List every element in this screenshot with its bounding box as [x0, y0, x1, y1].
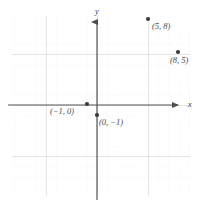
point-label-neg1-0: (−1, 0) [50, 107, 74, 116]
data-point [176, 50, 180, 54]
data-point [85, 102, 89, 106]
x-axis-label: x [188, 100, 192, 109]
point-label-5-8: (5, 8) [152, 22, 170, 31]
plot-canvas [0, 0, 205, 206]
major-gridlines [12, 16, 190, 196]
point-label-0-neg1: (0, −1) [99, 118, 123, 127]
y-axis-label: y [95, 7, 99, 16]
point-label-8-5: (8, 5) [170, 56, 188, 65]
grid-layer [12, 16, 190, 196]
data-point [146, 17, 150, 21]
coordinate-plane-figure: y x (5, 8) (8, 5) (−1, 0) (0, −1) [0, 0, 205, 206]
